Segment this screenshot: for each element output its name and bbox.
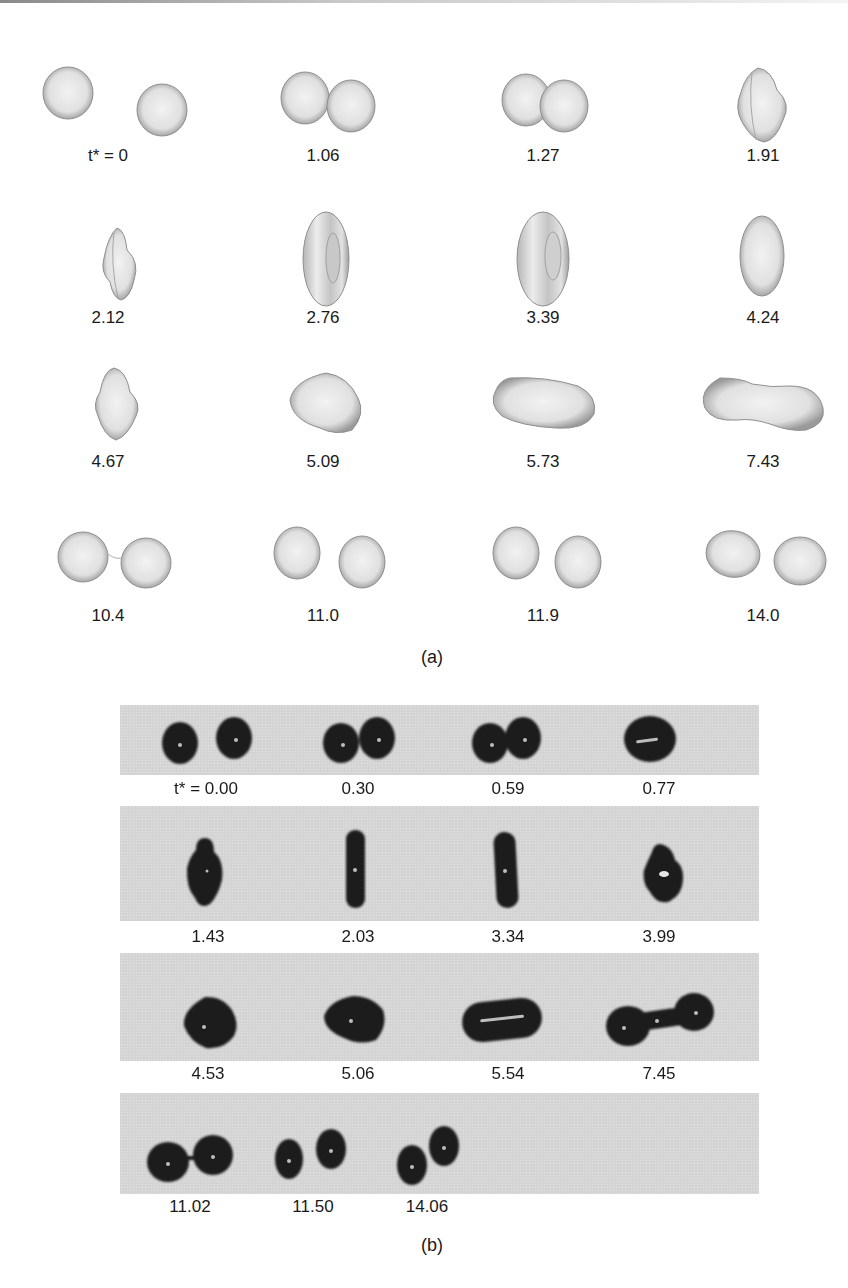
frame-label: 0.59 <box>448 779 568 799</box>
frame-label: 3.99 <box>599 927 719 947</box>
frame-label: 2.03 <box>298 927 418 947</box>
frame-label: t* = 0.00 <box>146 779 266 799</box>
frame-label: 5.06 <box>298 1064 418 1084</box>
frame-label: 14.06 <box>367 1197 487 1217</box>
frame-label: 5.54 <box>448 1064 568 1084</box>
frame-label: 0.30 <box>298 779 418 799</box>
figure-b-photographs <box>0 0 848 1288</box>
frame-label: 3.34 <box>448 927 568 947</box>
figure-b-caption: (b) <box>402 1235 462 1256</box>
frame-label: 0.77 <box>599 779 719 799</box>
frame-label: 7.45 <box>599 1064 719 1084</box>
frame-label: 11.02 <box>130 1197 250 1217</box>
frame-label: 4.53 <box>148 1064 268 1084</box>
frame-label: 11.50 <box>253 1197 373 1217</box>
frame-label: 1.43 <box>148 927 268 947</box>
